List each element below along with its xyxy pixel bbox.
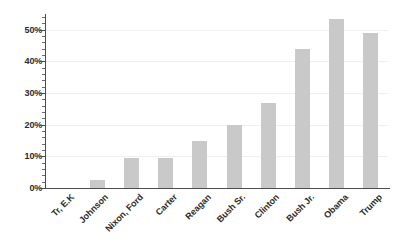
y-tick-minor xyxy=(42,87,45,88)
y-tick-minor xyxy=(42,175,45,176)
bar-slot xyxy=(46,14,80,188)
y-tick-minor xyxy=(42,182,45,183)
y-tick-minor xyxy=(42,17,45,18)
y-tick-minor xyxy=(42,112,45,113)
y-tick-major xyxy=(40,125,45,126)
y-axis: 0%10%20%30%40%50% xyxy=(0,0,42,245)
bar-slot xyxy=(149,14,183,188)
bar-slot xyxy=(320,14,354,188)
bar-carter[interactable] xyxy=(158,158,173,188)
bar-slot xyxy=(354,14,388,188)
y-tick-minor xyxy=(42,169,45,170)
y-tick-minor xyxy=(42,99,45,100)
x-tick-label-tr-e-k: Tr, E.K xyxy=(50,192,76,218)
y-tick-minor xyxy=(42,36,45,37)
x-tick-label-johnson: Johnson xyxy=(77,192,110,225)
x-tick-label-clinton: Clinton xyxy=(253,192,281,220)
x-tick-label-reagan: Reagan xyxy=(183,192,213,222)
bar-johnson[interactable] xyxy=(90,180,105,188)
bar-slot xyxy=(217,14,251,188)
x-tick-label-trump: Trump xyxy=(358,192,384,218)
bar-slot xyxy=(183,14,217,188)
bar-slot xyxy=(114,14,148,188)
bar-chart: 0%10%20%30%40%50% Tr, E.KJohnsonNixon, F… xyxy=(0,0,396,245)
y-tick-minor xyxy=(42,42,45,43)
x-tick-label-bush-jr: Bush Jr. xyxy=(284,192,316,224)
y-tick-minor xyxy=(42,118,45,119)
y-tick-minor xyxy=(42,144,45,145)
y-tick-minor xyxy=(42,137,45,138)
y-tick-major xyxy=(40,30,45,31)
y-tick-minor xyxy=(42,80,45,81)
x-tick-label-carter: Carter xyxy=(153,192,178,217)
bar-slot xyxy=(251,14,285,188)
plot-area xyxy=(46,14,388,188)
y-tick-minor xyxy=(42,68,45,69)
y-tick-minor xyxy=(42,74,45,75)
y-tick-major xyxy=(40,93,45,94)
y-tick-minor xyxy=(42,49,45,50)
bar-trump[interactable] xyxy=(363,33,378,188)
bar-slot xyxy=(285,14,319,188)
bar-bush-sr[interactable] xyxy=(227,125,242,188)
bar-reagan[interactable] xyxy=(192,141,207,188)
bar-nixon-ford[interactable] xyxy=(124,158,139,188)
y-tick-minor xyxy=(42,55,45,56)
y-tick-minor xyxy=(42,131,45,132)
x-tick-label-bush-sr: Bush Sr. xyxy=(215,192,247,224)
bar-bush-jr[interactable] xyxy=(295,49,310,188)
y-axis-line xyxy=(45,14,46,189)
bar-slot xyxy=(80,14,114,188)
bar-obama[interactable] xyxy=(329,19,344,188)
y-tick-major xyxy=(40,156,45,157)
x-tick-label-obama: Obama xyxy=(321,192,349,220)
y-tick-minor xyxy=(42,163,45,164)
x-axis-line xyxy=(45,188,390,189)
y-tick-minor xyxy=(42,150,45,151)
y-tick-minor xyxy=(42,23,45,24)
bar-clinton[interactable] xyxy=(261,103,276,188)
y-tick-major xyxy=(40,61,45,62)
y-tick-major xyxy=(40,188,45,189)
y-tick-minor xyxy=(42,106,45,107)
